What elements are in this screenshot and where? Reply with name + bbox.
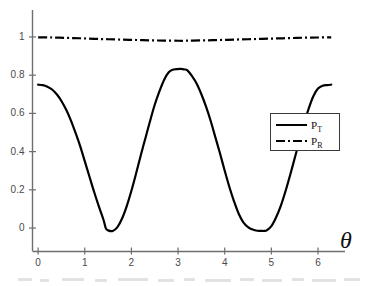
x-tick-label: 4 — [205, 258, 245, 268]
legend-item-pt[interactable]: PT — [271, 117, 339, 133]
legend-swatch-solid — [276, 124, 307, 126]
legend[interactable]: PT PR — [270, 113, 340, 151]
legend-label-pr: PR — [311, 133, 322, 154]
x-tick-label: 3 — [158, 258, 198, 268]
y-tick-label: 0.2 — [0, 185, 25, 195]
x-tick-label: 5 — [251, 258, 291, 268]
figure-canvas: 00.20.40.60.81 0123456 θ PT PR — [0, 0, 370, 286]
x-tick-label: 6 — [298, 258, 338, 268]
x-tick-label: 2 — [111, 258, 151, 268]
legend-swatch-dashdot — [276, 140, 307, 142]
y-tick-label: 0 — [0, 223, 25, 233]
legend-item-pr[interactable]: PR — [271, 133, 339, 149]
series-line-pr — [38, 37, 331, 40]
y-tick-label: 1 — [0, 32, 25, 42]
x-axis-label: θ — [340, 228, 352, 252]
y-tick-label: 0.4 — [0, 147, 25, 157]
y-tick-label: 0.6 — [0, 108, 25, 118]
legend-label-pr-sub: R — [317, 141, 322, 150]
y-tick-label: 0.8 — [0, 70, 25, 80]
x-tick-label: 1 — [65, 258, 105, 268]
x-tick-label: 0 — [18, 258, 58, 268]
